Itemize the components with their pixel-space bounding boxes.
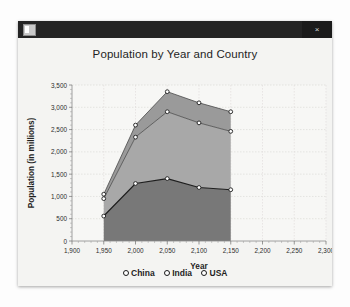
data-point: [102, 214, 106, 218]
x-axis-tick-label: 2,100: [191, 247, 207, 254]
x-axis-tick-label: 2,250: [286, 247, 302, 254]
data-point: [229, 188, 233, 192]
x-axis-tick-label: 2,300: [318, 247, 332, 254]
y-axis-title: Population (in millions): [27, 117, 36, 208]
chart-window: × Population by Year and Country 05001,0…: [18, 21, 332, 286]
chart-container: Population by Year and Country 05001,000…: [18, 38, 332, 286]
data-point: [134, 182, 138, 186]
application-icon: [23, 24, 36, 36]
legend-marker-icon: [201, 270, 207, 276]
data-point: [197, 121, 201, 125]
y-axis-tick-label: 2,500: [51, 126, 67, 133]
x-axis-tick-label: 1,900: [64, 247, 80, 254]
data-point: [134, 135, 138, 139]
x-axis-tick-label: 2,050: [159, 247, 175, 254]
window-titlebar[interactable]: ×: [18, 21, 332, 38]
data-point: [165, 177, 169, 181]
legend-label: India: [172, 268, 192, 278]
legend-item-india[interactable]: India: [164, 268, 192, 278]
screenshot-root: × Population by Year and Country 05001,0…: [0, 0, 350, 307]
legend-marker-icon: [164, 270, 170, 276]
y-axis-tick-label: 1,000: [51, 193, 67, 200]
y-axis-tick-label: 3,500: [51, 82, 67, 89]
data-point: [134, 123, 138, 127]
data-point: [229, 129, 233, 133]
data-point: [102, 197, 106, 201]
legend-item-china[interactable]: China: [123, 268, 155, 278]
x-axis-tick-label: 2,200: [255, 247, 271, 254]
close-icon[interactable]: ×: [302, 21, 332, 38]
legend-label: USA: [210, 268, 228, 278]
data-point: [165, 90, 169, 94]
data-point: [102, 192, 106, 196]
y-axis-tick-label: 2,000: [51, 148, 67, 155]
x-axis-tick-label: 2,000: [128, 247, 144, 254]
legend-item-usa[interactable]: USA: [201, 268, 227, 278]
data-point: [197, 186, 201, 190]
y-axis-tick-label: 1,500: [51, 171, 67, 178]
y-axis-tick-label: 3,000: [51, 104, 67, 111]
data-point: [165, 110, 169, 114]
data-point: [229, 110, 233, 114]
legend-marker-icon: [123, 270, 129, 276]
legend-label: China: [131, 268, 155, 278]
chart-legend: ChinaIndiaUSA: [18, 268, 332, 278]
y-axis-tick-label: 500: [56, 215, 67, 222]
x-axis-tick-label: 1,950: [96, 247, 112, 254]
data-point: [197, 101, 201, 105]
stacked-area-chart: 05001,0001,5002,0002,5003,0003,5001,9001…: [18, 38, 332, 286]
x-axis-tick-label: 2,150: [223, 247, 239, 254]
y-axis-tick-label: 0: [63, 238, 67, 245]
